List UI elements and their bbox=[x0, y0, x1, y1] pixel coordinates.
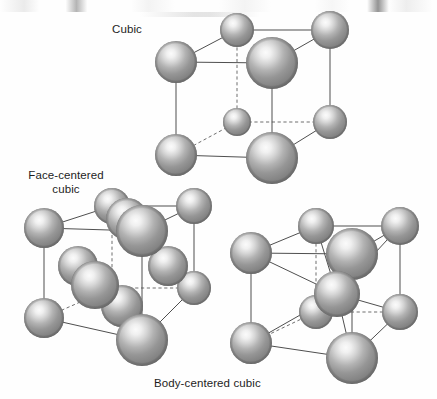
figure-canvas: Cubic bbox=[0, 0, 437, 399]
atom-corner bbox=[230, 232, 272, 274]
atom-corner bbox=[298, 208, 334, 244]
atom-corner bbox=[381, 207, 419, 245]
atom-corner bbox=[230, 322, 272, 364]
atom-body-center bbox=[314, 271, 360, 317]
atom-corner bbox=[382, 294, 418, 330]
atom-corner bbox=[326, 332, 378, 384]
label-body-centered-cubic: Body-centered cubic bbox=[154, 376, 261, 390]
lattice-body-centered-cubic bbox=[0, 0, 437, 399]
bcc-atoms bbox=[230, 207, 419, 384]
lattice-bcc-svg bbox=[0, 0, 437, 399]
